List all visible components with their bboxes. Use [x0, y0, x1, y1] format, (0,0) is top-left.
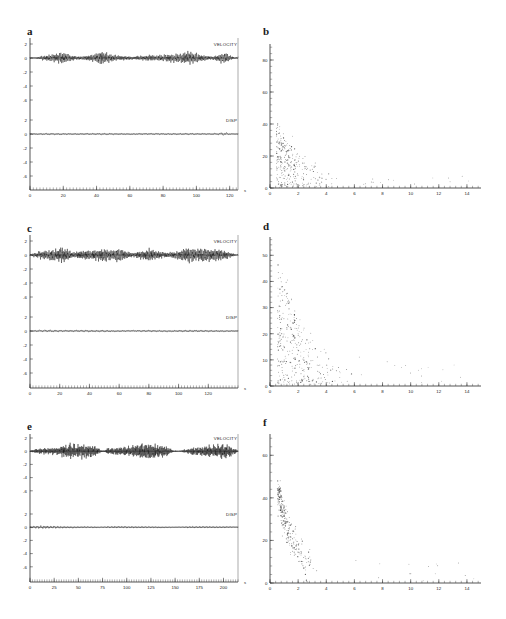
svg-text:6: 6: [353, 191, 356, 196]
svg-text:VELOCITY: VELOCITY: [214, 42, 237, 47]
svg-text:-2: -2: [23, 343, 27, 348]
svg-text:12: 12: [436, 389, 441, 394]
panel-c-plot: s02040608010012020-2-4-6VELOCITY20-2-4-6…: [0, 205, 253, 410]
svg-text:25: 25: [52, 585, 57, 590]
svg-text:10: 10: [408, 586, 413, 591]
svg-text:20: 20: [61, 193, 66, 198]
svg-text:20: 20: [57, 391, 62, 396]
svg-text:-4: -4: [23, 160, 27, 165]
svg-text:40: 40: [87, 391, 92, 396]
panel-e-plot: s025507510012515017520020-2-4-6VELOCITY2…: [0, 410, 253, 619]
svg-text:12: 12: [436, 191, 441, 196]
panel-f-plot: 024681012140204060: [253, 410, 506, 619]
svg-text:120: 120: [205, 391, 213, 396]
panel-d-svg: 0246810121401020304050: [253, 205, 506, 410]
svg-text:VELOCITY: VELOCITY: [214, 239, 237, 244]
panel-e: e s025507510012515017520020-2-4-6VELOCIT…: [0, 410, 253, 619]
svg-text:-2: -2: [23, 538, 27, 543]
svg-text:6: 6: [353, 389, 356, 394]
svg-text:-4: -4: [23, 475, 27, 480]
svg-text:10: 10: [263, 358, 268, 363]
svg-text:0: 0: [29, 193, 32, 198]
svg-text:50: 50: [76, 585, 81, 590]
panel-d-plot: 0246810121401020304050: [253, 205, 506, 410]
svg-text:2: 2: [297, 191, 300, 196]
svg-text:20: 20: [263, 154, 268, 159]
svg-text:0: 0: [265, 581, 268, 586]
svg-text:2: 2: [25, 42, 28, 47]
svg-text:-2: -2: [23, 267, 27, 272]
svg-text:40: 40: [263, 122, 268, 127]
svg-text:60: 60: [263, 90, 268, 95]
svg-text:20: 20: [263, 332, 268, 337]
svg-text:175: 175: [196, 585, 204, 590]
svg-text:10: 10: [408, 191, 413, 196]
svg-text:-4: -4: [23, 281, 27, 286]
svg-text:0: 0: [25, 132, 28, 137]
svg-text:-2: -2: [23, 462, 27, 467]
svg-text:-6: -6: [23, 98, 27, 103]
svg-text:-6: -6: [23, 295, 27, 300]
svg-text:-2: -2: [23, 146, 27, 151]
svg-text:80: 80: [146, 391, 151, 396]
svg-text:30: 30: [263, 305, 268, 310]
svg-text:s: s: [244, 386, 246, 391]
svg-text:80: 80: [161, 193, 166, 198]
svg-text:120: 120: [226, 193, 234, 198]
svg-text:0: 0: [269, 586, 272, 591]
svg-text:-6: -6: [23, 371, 27, 376]
svg-text:4: 4: [325, 586, 328, 591]
svg-text:75: 75: [100, 585, 105, 590]
svg-text:150: 150: [171, 585, 179, 590]
svg-text:0: 0: [265, 186, 268, 191]
figure-root: a s02040608010012020-2-4-6VELOCITY20-2-4…: [0, 0, 506, 619]
svg-text:s: s: [244, 188, 246, 193]
panel-c: c s02040608010012020-2-4-6VELOCITY20-2-4…: [0, 205, 253, 410]
svg-text:0: 0: [25, 253, 28, 258]
svg-text:2: 2: [297, 586, 300, 591]
svg-text:0: 0: [29, 391, 32, 396]
svg-text:0: 0: [25, 525, 28, 530]
svg-text:2: 2: [25, 315, 28, 320]
svg-text:14: 14: [464, 389, 469, 394]
panel-b: b 02468101214020406080: [253, 0, 506, 205]
svg-text:0: 0: [265, 384, 268, 389]
svg-text:-4: -4: [23, 84, 27, 89]
panel-c-svg: s02040608010012020-2-4-6VELOCITY20-2-4-6…: [0, 205, 253, 410]
svg-text:s: s: [244, 580, 246, 585]
svg-text:2: 2: [25, 239, 28, 244]
panel-b-plot: 02468101214020406080: [253, 0, 506, 205]
svg-text:100: 100: [193, 193, 201, 198]
svg-text:VELOCITY: VELOCITY: [214, 436, 237, 441]
svg-text:4: 4: [325, 191, 328, 196]
svg-text:10: 10: [408, 389, 413, 394]
svg-text:DISP: DISP: [226, 512, 237, 517]
svg-text:100: 100: [123, 585, 131, 590]
svg-text:14: 14: [464, 586, 469, 591]
svg-text:2: 2: [25, 436, 28, 441]
svg-text:-6: -6: [23, 565, 27, 570]
svg-text:DISP: DISP: [226, 118, 237, 123]
svg-text:100: 100: [175, 391, 183, 396]
svg-text:-2: -2: [23, 70, 27, 75]
svg-text:0: 0: [269, 191, 272, 196]
panel-e-svg: s025507510012515017520020-2-4-6VELOCITY2…: [0, 410, 253, 619]
panel-b-svg: 02468101214020406080: [253, 0, 506, 205]
svg-text:14: 14: [464, 191, 469, 196]
svg-text:0: 0: [25, 56, 28, 61]
svg-text:-4: -4: [23, 551, 27, 556]
svg-text:2: 2: [297, 389, 300, 394]
svg-text:80: 80: [263, 58, 268, 63]
svg-text:0: 0: [25, 329, 28, 334]
svg-text:-4: -4: [23, 357, 27, 362]
panel-a-plot: s02040608010012020-2-4-6VELOCITY20-2-4-6…: [0, 0, 253, 205]
svg-text:60: 60: [117, 391, 122, 396]
svg-text:40: 40: [263, 496, 268, 501]
svg-text:200: 200: [220, 585, 228, 590]
svg-text:-6: -6: [23, 489, 27, 494]
svg-text:125: 125: [147, 585, 155, 590]
svg-text:4: 4: [325, 389, 328, 394]
svg-text:0: 0: [25, 449, 28, 454]
svg-text:2: 2: [25, 512, 28, 517]
svg-text:8: 8: [381, 389, 384, 394]
